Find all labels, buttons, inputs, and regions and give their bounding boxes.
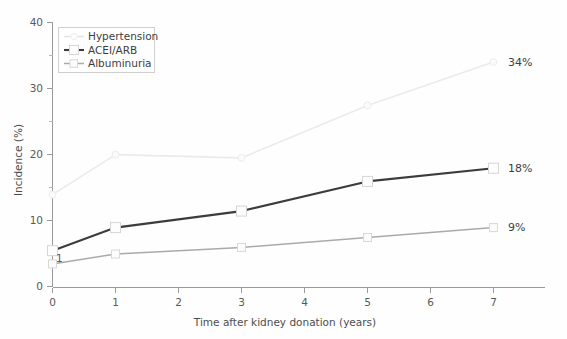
series-acei-arb[interactable]: 18% [48, 162, 533, 256]
hypertension-point-0 [49, 191, 56, 198]
y-tick-label-0: 0 [36, 280, 43, 292]
legend-label-acei-arb: ACEI/ARB [88, 44, 137, 56]
acei-arb-line [53, 168, 494, 251]
x-axis: 0 1 2 3 4 5 6 7 Time after kidney donati… [49, 288, 545, 329]
x-tick-label-4: 4 [301, 296, 308, 308]
legend-item-acei-arb[interactable]: ACEI/ARB [64, 44, 137, 56]
x-tick-label-2: 2 [175, 296, 182, 308]
x-tick-label-5: 5 [364, 296, 371, 308]
acei-arb-point-5 [363, 176, 373, 186]
x-tick-label-0: 0 [49, 296, 56, 308]
y-axis: 40 30 20 10 0 Incidence (%) [12, 16, 53, 292]
hypertension-end-label: 34% [508, 56, 532, 69]
hypertension-point-3 [238, 155, 245, 162]
legend-marker-hypertension-icon [71, 33, 77, 39]
y-axis-title: Incidence (%) [12, 124, 24, 196]
albuminuria-point-3 [238, 243, 246, 251]
albuminuria-point-1 [112, 250, 120, 258]
hypertension-point-7 [490, 59, 497, 66]
legend-label-albuminuria: Albuminuria [88, 57, 152, 69]
series-hypertension[interactable]: 34% [49, 56, 532, 198]
x-tick-label-6: 6 [427, 296, 434, 308]
chart-legend[interactable]: Hypertension ACEI/ARB Albuminuria [59, 28, 159, 73]
acei-arb-point-3 [237, 206, 247, 216]
hypertension-point-5 [364, 102, 371, 109]
x-tick-label-7: 7 [490, 296, 497, 308]
y-tick-label-40: 40 [30, 16, 43, 28]
y-tick-label-20: 20 [30, 148, 43, 160]
legend-marker-acei-arb-icon [70, 46, 79, 55]
x-axis-title: Time after kidney donation (years) [193, 316, 376, 328]
albuminuria-point-7 [490, 224, 498, 232]
acei-arb-point-7 [489, 163, 499, 173]
chart-figure: 40 30 20 10 0 Incidence (%) 0 1 2 3 4 5 … [0, 0, 567, 339]
hypertension-point-1 [112, 151, 119, 158]
y-tick-minor-label-stub: 1 [56, 252, 63, 264]
albuminuria-point-5 [364, 234, 372, 242]
x-tick-label-3: 3 [238, 296, 245, 308]
y-tick-label-10: 10 [30, 214, 43, 226]
y-tick-label-30: 30 [30, 82, 43, 94]
acei-arb-point-1 [111, 223, 121, 233]
albuminuria-end-label: 9% [508, 221, 525, 234]
x-tick-label-1: 1 [112, 296, 119, 308]
line-chart: 40 30 20 10 0 Incidence (%) 0 1 2 3 4 5 … [0, 0, 567, 339]
legend-label-hypertension: Hypertension [88, 30, 158, 42]
acei-arb-end-label: 18% [508, 162, 532, 175]
legend-marker-albuminuria-icon [70, 60, 78, 68]
